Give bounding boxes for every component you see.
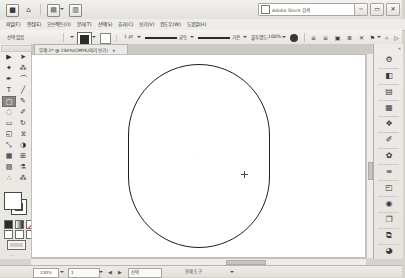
perspective-grid-tool[interactable]: ▦ <box>2 151 16 162</box>
scale-tool[interactable]: ◱ <box>2 129 16 140</box>
opacity-value[interactable]: 100% <box>268 34 281 39</box>
close-icon[interactable]: × <box>112 48 116 53</box>
transform-icon[interactable]: ✕ <box>357 33 366 42</box>
zoom-chevron-down-icon[interactable] <box>60 271 64 273</box>
menu-item-file[interactable]: 파일(F) <box>3 19 24 30</box>
distribute-icon[interactable]: ▣ <box>333 33 342 42</box>
stroke-weight-value[interactable]: 1 pt <box>124 34 133 39</box>
isolate-chevron-down-icon[interactable] <box>377 36 381 38</box>
menu-item-window[interactable]: 윈도우(W) <box>157 19 184 30</box>
panel-stroke[interactable]: ≡ <box>382 166 396 178</box>
stroke-swatch-icon[interactable] <box>100 33 111 44</box>
menu-item-type[interactable]: 문자(T) <box>74 19 95 30</box>
panel-appearance[interactable]: ◉ <box>382 198 396 210</box>
open-file-icon[interactable]: ▤ <box>47 4 60 17</box>
prev-artboard-icon[interactable]: ◀ <box>108 269 112 275</box>
next-artboard-icon[interactable]: ▶ <box>118 269 122 275</box>
paintbrush-tool[interactable]: ✎ <box>16 96 30 107</box>
arrange-icon[interactable]: ≣ <box>345 33 354 42</box>
document-icon[interactable]: ▥ <box>69 4 82 17</box>
gradient-tool[interactable]: ▨ <box>2 162 16 173</box>
menu-item-edit[interactable]: 편집(E) <box>24 19 45 30</box>
align-left-icon[interactable]: ≡ <box>309 33 318 42</box>
status-chevron-down-icon[interactable] <box>230 271 234 273</box>
blend-tool[interactable]: ∴ <box>2 173 16 184</box>
menu-item-help[interactable]: 도움말(H) <box>184 19 209 30</box>
panel-brushes[interactable]: ✐ <box>382 134 396 146</box>
status-tool-field[interactable]: 선택 <box>128 268 162 278</box>
dock-divider-2 <box>378 84 399 85</box>
rectangle-tool[interactable]: ▢ <box>2 96 16 107</box>
draw-behind-button[interactable] <box>15 230 24 239</box>
open-file-chevron-down-icon[interactable] <box>60 8 64 10</box>
curvature-tool[interactable]: ⌒ <box>16 74 30 85</box>
panel-layers[interactable]: ⧉ <box>382 230 396 242</box>
symbol-sprayer-tool[interactable]: ⁂ <box>16 173 30 184</box>
panel-swatches[interactable]: ❖ <box>382 118 396 130</box>
grid-icon[interactable]: ⌗ <box>382 33 391 42</box>
collapse-panels-icon[interactable]: « <box>398 45 401 51</box>
panel-pathfinder[interactable]: ◕ <box>382 245 396 257</box>
panel-artboards[interactable]: ❐ <box>382 214 396 226</box>
edit-toolbar-icon[interactable]: ⋯ <box>10 252 16 258</box>
free-transform-tool[interactable]: ⤡ <box>2 140 16 151</box>
stroke-profile-chevron-down-icon[interactable] <box>190 36 194 38</box>
stroke-chevron-down-icon[interactable] <box>92 36 96 38</box>
document-glyph: ▥ <box>70 5 81 16</box>
pencil-tool[interactable]: ✐ <box>16 107 30 118</box>
search-input[interactable]: Adobe Stock 검색 <box>258 3 356 16</box>
fill-color-swatch[interactable] <box>4 192 22 210</box>
zoom-level-field[interactable]: 230% <box>33 268 59 278</box>
direct-selection-tool[interactable]: ➤ <box>16 52 30 63</box>
panel-libraries[interactable]: ◧ <box>382 70 396 82</box>
panel-transparency[interactable]: ◰ <box>382 182 396 194</box>
home-icon[interactable]: ⌂ <box>22 4 35 17</box>
opacity-circle-icon[interactable] <box>290 34 298 42</box>
close-button[interactable]: ✕ <box>386 3 400 16</box>
fill-chevron-down-icon[interactable] <box>70 36 74 38</box>
align-center-icon[interactable]: ≡ <box>321 33 330 42</box>
panel-symbols[interactable]: ✿ <box>382 150 396 162</box>
rotate-tool[interactable]: ↻ <box>16 118 30 129</box>
app-logo-icon[interactable]: ■ <box>6 4 19 17</box>
app-logo-glyph: ■ <box>7 5 18 16</box>
menu-item-effect[interactable]: 효과(C) <box>115 19 136 30</box>
mesh-tool[interactable]: ⊞ <box>16 151 30 162</box>
artboard[interactable]: · <box>32 55 365 257</box>
stroke-weight-icon[interactable]: ⋮ <box>112 33 121 42</box>
control-divider-1 <box>63 33 64 42</box>
shape-builder-tool[interactable]: ◑ <box>16 140 30 151</box>
eyedropper-tool[interactable]: ⚗ <box>16 162 30 173</box>
stroke-weight-chevron-down-icon[interactable] <box>137 36 141 38</box>
play-icon[interactable]: ▷ <box>392 33 401 42</box>
change-screen-mode-button[interactable] <box>7 240 26 250</box>
draw-normal-button[interactable] <box>4 230 13 239</box>
selection-tool[interactable]: ▶ <box>2 52 16 63</box>
menu-item-view[interactable]: 보기(V) <box>136 19 157 30</box>
lasso-tool[interactable]: ⁂ <box>16 63 30 74</box>
eraser-tool[interactable]: ▭ <box>2 118 16 129</box>
width-tool[interactable]: ⧖ <box>16 129 30 140</box>
shaper-tool[interactable]: ◌ <box>2 107 16 118</box>
menu-item-select[interactable]: 선택(S) <box>95 19 116 30</box>
panel-color-guide[interactable]: ▦ <box>382 102 396 114</box>
menu-item-object[interactable]: 오브젝트(O) <box>44 19 74 30</box>
panel-properties[interactable]: ⚙ <box>382 54 396 66</box>
minimize-button[interactable]: ─ <box>354 3 368 16</box>
artboard-navigator-field[interactable]: 1 <box>68 268 100 278</box>
type-tool[interactable]: T <box>2 85 16 96</box>
gradient-swatch-button[interactable] <box>15 220 24 229</box>
tools-panel-grip[interactable] <box>1 45 32 52</box>
canvas-area[interactable]: · <box>31 54 366 258</box>
line-segment-tool[interactable]: ╱ <box>16 85 30 96</box>
artboard-chevron-down-icon[interactable] <box>99 271 103 273</box>
color-swatch-button[interactable] <box>4 220 13 229</box>
pen-tool[interactable]: ✒ <box>2 74 16 85</box>
panel-color[interactable]: ▤ <box>382 86 396 98</box>
opacity-chevron-down-icon[interactable] <box>282 36 286 38</box>
maximize-button[interactable]: ▭ <box>370 3 384 16</box>
isolate-icon[interactable]: ⚑ <box>368 33 377 42</box>
brush-chevron-down-icon[interactable] <box>243 36 247 38</box>
magic-wand-tool[interactable]: ✦ <box>2 63 16 74</box>
